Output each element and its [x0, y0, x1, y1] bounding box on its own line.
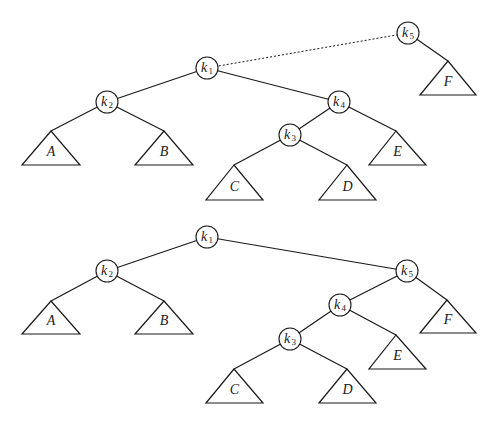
subtree-B: B [135, 301, 193, 334]
node-subscript: 3 [292, 337, 297, 347]
edge-k1-k2 [107, 68, 207, 102]
subtree-label: D [341, 382, 352, 397]
tree-before-rotation: ABCDEFk1k2k4k3k5 [22, 22, 476, 200]
node-subscript: 3 [292, 133, 297, 143]
node-k2: k2 [96, 91, 118, 113]
node-label: k [402, 25, 409, 40]
subtree-label: C [230, 382, 240, 397]
node-subscript: 1 [209, 235, 214, 245]
subtree-C: C [206, 369, 263, 403]
tree-diagram: ABCDEFk1k2k4k3k5 ABCDEFk1k2k5k4k3 [0, 0, 500, 427]
subtree-label: C [230, 179, 240, 194]
node-k4: k4 [329, 294, 351, 316]
subtree-label: F [443, 312, 453, 327]
subtree-label: A [46, 313, 56, 328]
edge-k1-k2 [107, 237, 207, 271]
node-subscript: 5 [409, 269, 414, 279]
subtree-B: B [135, 131, 193, 165]
subtree-label: E [392, 144, 402, 159]
node-k5: k5 [396, 260, 418, 282]
node-subscript: 2 [109, 100, 114, 110]
dashed-edge-k1-k5 [207, 33, 408, 68]
subtree-D: D [319, 369, 376, 403]
node-subscript: 4 [341, 100, 346, 110]
node-label: k [101, 263, 108, 278]
subtree-A: A [22, 131, 80, 165]
node-subscript: 1 [209, 66, 214, 76]
node-label: k [334, 297, 341, 312]
node-label: k [201, 60, 208, 75]
tree-after-rotation: ABCDEFk1k2k5k4k3 [22, 226, 476, 403]
subtree-C: C [206, 165, 263, 200]
node-k3: k3 [279, 124, 301, 146]
node-k3: k3 [279, 328, 301, 350]
edge-k1-k4 [207, 68, 339, 102]
node-k2: k2 [96, 260, 118, 282]
subtree-label: B [160, 144, 169, 159]
node-label: k [201, 229, 208, 244]
node-subscript: 5 [410, 31, 415, 41]
subtree-label: A [46, 144, 56, 159]
node-k1: k1 [196, 226, 218, 248]
subtree-label: D [341, 179, 352, 194]
subtree-label: F [443, 74, 453, 89]
node-label: k [101, 94, 108, 109]
node-label: k [284, 127, 291, 142]
node-label: k [333, 94, 340, 109]
node-label: k [401, 263, 408, 278]
node-k4: k4 [328, 91, 350, 113]
subtree-F: F [420, 300, 476, 333]
subtree-D: D [319, 165, 376, 200]
subtree-E: E [369, 335, 426, 369]
node-k1: k1 [196, 57, 218, 79]
subtree-E: E [369, 131, 426, 165]
edge-k1-k5 [207, 237, 407, 271]
node-k5: k5 [397, 22, 419, 44]
subtree-A: A [22, 301, 80, 334]
subtree-F: F [420, 61, 476, 95]
node-subscript: 4 [342, 303, 347, 313]
subtree-label: B [160, 313, 169, 328]
node-subscript: 2 [109, 269, 114, 279]
subtree-label: E [392, 348, 402, 363]
node-label: k [284, 331, 291, 346]
